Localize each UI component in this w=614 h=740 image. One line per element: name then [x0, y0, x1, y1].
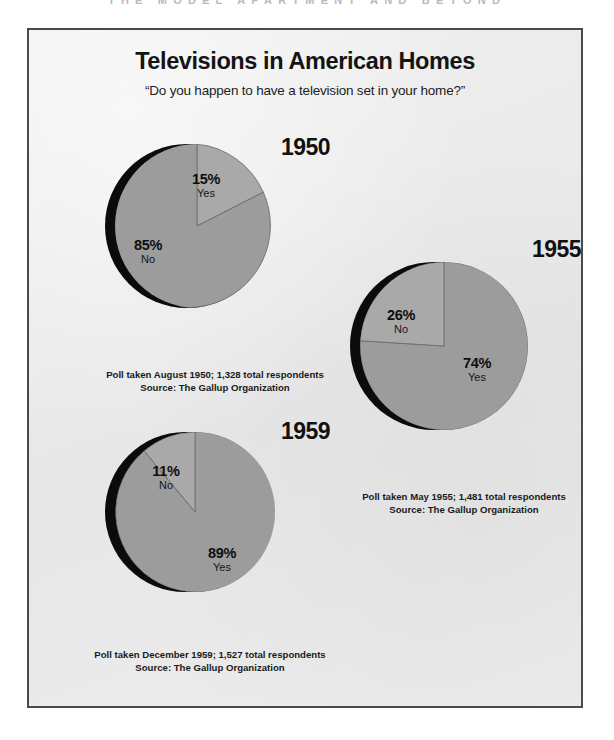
running-header: THE MODEL APARTMENT AND BEYOND	[0, 0, 614, 6]
slice-label-1955-no: 26% No	[366, 308, 436, 336]
slice-name-1959-no: No	[131, 480, 201, 492]
page-title: Televisions in American Homes	[29, 48, 581, 75]
pie-disc-1950	[115, 144, 279, 308]
pie-chart-1955: 1955 26% No 74% Yes	[344, 252, 583, 462]
slice-pct-1950-no: 85%	[113, 238, 183, 254]
pie-chart-1959: 1959 11% No 89% Yes	[95, 422, 345, 622]
caption-1955-line1: Poll taken May 1955; 1,481 total respond…	[319, 490, 583, 503]
caption-1955: Poll taken May 1955; 1,481 total respond…	[319, 490, 583, 516]
slice-name-1955-yes: Yes	[442, 372, 512, 384]
slice-name-1959-yes: Yes	[187, 562, 257, 574]
pie-svg-1955	[360, 262, 528, 430]
figure-inner: Televisions in American Homes “Do you ha…	[29, 30, 581, 706]
slice-label-1950-no: 85% No	[113, 238, 183, 266]
caption-1959: Poll taken December 1959; 1,527 total re…	[60, 648, 360, 674]
slice-label-1950-yes: 15% Yes	[171, 172, 241, 200]
caption-1959-line1: Poll taken December 1959; 1,527 total re…	[60, 648, 360, 661]
slice-pct-1959-yes: 89%	[187, 546, 257, 562]
year-label-1959: 1959	[281, 418, 330, 445]
caption-1950: Poll taken August 1950; 1,328 total resp…	[70, 368, 360, 394]
caption-1959-line2: Source: The Gallup Organization	[60, 661, 360, 674]
slice-pct-1955-no: 26%	[366, 308, 436, 324]
caption-1950-line1: Poll taken August 1950; 1,328 total resp…	[70, 368, 360, 381]
pie-disc-1955	[360, 262, 528, 430]
year-label-1955: 1955	[532, 236, 581, 263]
figure-subtitle: “Do you happen to have a television set …	[29, 83, 581, 98]
figure-frame: Televisions in American Homes “Do you ha…	[27, 28, 583, 708]
slice-label-1959-yes: 89% Yes	[187, 546, 257, 574]
slice-pct-1959-no: 11%	[131, 464, 201, 480]
pie-svg-1950	[115, 144, 279, 308]
slice-name-1950-yes: Yes	[171, 188, 241, 200]
pie-chart-1950: 1950 15% Yes 85% No	[95, 134, 345, 334]
slice-label-1959-no: 11% No	[131, 464, 201, 492]
slice-name-1955-no: No	[366, 324, 436, 336]
slice-pct-1950-yes: 15%	[171, 172, 241, 188]
slice-pct-1955-yes: 74%	[442, 356, 512, 372]
year-label-1950: 1950	[281, 134, 330, 161]
caption-1950-line2: Source: The Gallup Organization	[70, 381, 360, 394]
slice-label-1955-yes: 74% Yes	[442, 356, 512, 384]
slice-name-1950-no: No	[113, 254, 183, 266]
caption-1955-line2: Source: The Gallup Organization	[319, 503, 583, 516]
